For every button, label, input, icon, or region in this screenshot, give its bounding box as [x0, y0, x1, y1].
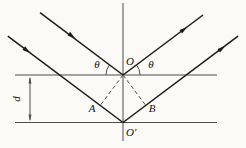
diagram-svg: θ θ O O′ A B d [0, 0, 246, 148]
point-label-b: B [149, 102, 156, 114]
optics-reflection-diagram: θ θ O O′ A B d [0, 0, 246, 148]
angle-label-left: θ [94, 58, 100, 70]
point-label-o-prime: O′ [126, 126, 137, 138]
spacing-label-d: d [10, 96, 22, 102]
angle-label-right: θ [148, 58, 154, 70]
point-label-a: A [88, 102, 96, 114]
point-label-o: O [126, 55, 134, 67]
